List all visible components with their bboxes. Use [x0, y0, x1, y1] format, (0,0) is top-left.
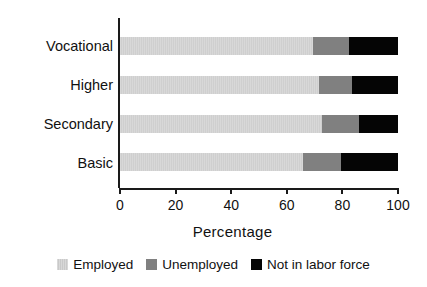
unemployed-swatch-icon [146, 259, 157, 270]
bar-segment-not-in-labor-force [349, 37, 398, 55]
legend-label-unemployed: Unemployed [162, 258, 238, 272]
x-tick-label-80: 80 [322, 198, 362, 212]
legend-item-unemployed: Unemployed [146, 258, 238, 272]
x-tick-label-40: 40 [211, 198, 251, 212]
legend-label-not-in-labor-force: Not in labor force [267, 258, 370, 272]
category-label-secondary: Secondary [5, 117, 113, 132]
plot-area [120, 18, 398, 188]
bar-segment-not-in-labor-force [352, 76, 398, 94]
x-tick-label-60: 60 [267, 198, 307, 212]
not-in-labor-force-swatch-icon [251, 259, 262, 270]
bar-segment-not-in-labor-force [359, 115, 398, 133]
bar-row-secondary [120, 115, 398, 133]
y-axis-category-labels: Vocational Higher Secondary Basic [0, 0, 113, 200]
x-tick-20 [175, 188, 177, 194]
legend-label-employed: Employed [73, 258, 133, 272]
category-label-basic: Basic [5, 156, 113, 171]
bar-segment-unemployed [319, 76, 352, 94]
bar-segment-employed [120, 37, 313, 55]
category-label-vocational: Vocational [5, 39, 113, 54]
bar-row-vocational [120, 37, 398, 55]
bar-segment-unemployed [322, 115, 360, 133]
x-tick-0 [119, 188, 121, 194]
x-tick-label-20: 20 [156, 198, 196, 212]
bar-row-higher [120, 76, 398, 94]
x-tick-40 [230, 188, 232, 194]
bar-segment-employed [120, 153, 303, 171]
employed-swatch-icon [57, 259, 68, 270]
legend-item-not-in-labor-force: Not in labor force [251, 258, 370, 272]
legend: Employed Unemployed Not in labor force [0, 258, 427, 272]
category-label-higher: Higher [5, 78, 113, 93]
bar-row-basic [120, 153, 398, 171]
x-axis-title: Percentage [0, 224, 427, 239]
x-tick-100 [397, 188, 399, 194]
legend-item-employed: Employed [57, 258, 133, 272]
bar-segment-not-in-labor-force [341, 153, 398, 171]
x-tick-80 [341, 188, 343, 194]
bar-segment-employed [120, 115, 322, 133]
bar-segment-employed [120, 76, 319, 94]
x-tick-label-0: 0 [100, 198, 140, 212]
bar-segment-unemployed [303, 153, 341, 171]
x-axis-line [119, 188, 399, 190]
x-tick-60 [286, 188, 288, 194]
stacked-bar-chart: Vocational Higher Secondary Basic 020406… [0, 0, 427, 287]
bar-segment-unemployed [313, 37, 349, 55]
x-tick-label-100: 100 [378, 198, 418, 212]
